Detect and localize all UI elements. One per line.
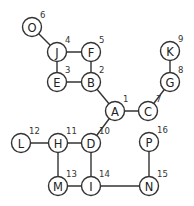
node-label: B xyxy=(87,76,95,90)
node-label: N xyxy=(145,180,154,194)
visit-order-number: 13 xyxy=(66,169,77,179)
node-label: I xyxy=(89,180,92,194)
node-label: C xyxy=(144,105,152,119)
visit-order-number: 2 xyxy=(99,65,104,75)
visit-order-number: 6 xyxy=(40,10,45,20)
visit-order-number: 5 xyxy=(99,35,104,45)
node-J: J4 xyxy=(48,35,71,62)
node-D: D10 xyxy=(82,126,110,153)
node-N: N15 xyxy=(140,169,168,196)
visit-order-number: 7 xyxy=(156,94,161,104)
visit-order-number: 10 xyxy=(99,126,110,136)
node-label: O xyxy=(27,21,36,35)
node-label: A xyxy=(111,105,119,119)
node-L: L12 xyxy=(12,126,40,153)
visit-order-number: 16 xyxy=(157,125,168,135)
visit-order-number: 15 xyxy=(157,169,168,179)
visit-order-number: 3 xyxy=(65,65,70,75)
node-A: A1 xyxy=(106,94,129,121)
node-B: B2 xyxy=(82,65,105,92)
node-E: E3 xyxy=(48,65,71,92)
node-K: K9 xyxy=(161,34,184,61)
visit-order-number: 4 xyxy=(65,35,70,45)
node-M: M13 xyxy=(49,169,77,196)
node-label: E xyxy=(53,76,60,90)
node-G: G8 xyxy=(161,65,184,92)
node-P: P16 xyxy=(140,125,168,152)
visit-order-number: 14 xyxy=(99,169,110,179)
visit-order-number: 1 xyxy=(123,94,128,104)
node-label: G xyxy=(166,76,175,90)
node-label: F xyxy=(88,46,95,60)
node-label: J xyxy=(54,46,58,60)
node-H: H11 xyxy=(49,126,77,153)
node-label: K xyxy=(166,45,174,59)
visit-order-number: 8 xyxy=(178,65,183,75)
node-F: F5 xyxy=(82,35,105,62)
node-label: H xyxy=(54,137,63,151)
nodes: A1B2E3J4F5O6C7G8K9D10H11L12M13I14N15P16 xyxy=(12,10,184,196)
node-C: C7 xyxy=(139,94,162,121)
node-label: M xyxy=(53,180,63,194)
visit-order-number: 12 xyxy=(29,126,40,136)
node-O: O6 xyxy=(23,10,46,37)
visit-order-number: 11 xyxy=(66,126,77,136)
node-label: L xyxy=(18,137,25,151)
node-label: D xyxy=(87,137,96,151)
node-label: P xyxy=(146,136,153,150)
visit-order-number: 9 xyxy=(178,34,183,44)
node-I: I14 xyxy=(82,169,110,196)
graph-diagram: A1B2E3J4F5O6C7G8K9D10H11L12M13I14N15P16 xyxy=(0,0,194,206)
